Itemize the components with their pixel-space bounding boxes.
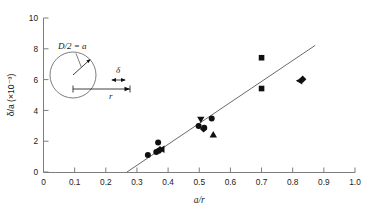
y-tick-label-8: 8 <box>33 44 38 54</box>
x-tick-label-1.0: 1.0 <box>349 177 361 187</box>
figure-container: 0 2 4 6 8 10 0 0.1 0.2 0.3 0.4 0.5 <box>0 0 371 214</box>
y-tick-label-6: 6 <box>33 75 38 85</box>
data-point-triangle-down <box>197 117 204 123</box>
y-axis-title: δ/a (×10⁻³) <box>6 74 16 117</box>
data-point-square <box>259 55 265 61</box>
data-point-group <box>145 55 307 158</box>
delta-label: δ <box>116 65 121 75</box>
delta-arrow-head-right <box>121 78 126 82</box>
y-tick-label-2: 2 <box>33 136 38 146</box>
axes-group <box>44 18 356 173</box>
x-tick-label-0.5: 0.5 <box>193 177 205 187</box>
x-tick-label-0.9: 0.9 <box>318 177 330 187</box>
x-tick-label-0.2: 0.2 <box>100 177 112 187</box>
scatter-plot: 0 2 4 6 8 10 0 0.1 0.2 0.3 0.4 0.5 <box>0 0 371 214</box>
radius-label: D/2 = a <box>57 41 87 51</box>
x-tick-label-0.8: 0.8 <box>287 177 299 187</box>
x-tick-label-0: 0 <box>41 177 46 187</box>
data-point-circle <box>145 152 151 158</box>
x-tick-label-0.1: 0.1 <box>69 177 81 187</box>
x-tick-label-0.3: 0.3 <box>131 177 143 187</box>
y-tick-group: 0 2 4 6 8 10 <box>29 13 49 177</box>
y-tick-label-4: 4 <box>33 106 38 116</box>
data-point-circle <box>209 115 215 121</box>
data-point-triangle-up <box>210 131 217 137</box>
x-tick-label-0.6: 0.6 <box>225 177 237 187</box>
x-tick-label-0.4: 0.4 <box>162 177 174 187</box>
y-tick-label-0: 0 <box>33 167 38 177</box>
data-point-circle <box>201 125 207 131</box>
y-tick-label-10: 10 <box>29 13 39 23</box>
radius-leader-line <box>76 54 82 68</box>
capillary-cross-section-diagram: D/2 = a r δ <box>50 41 130 101</box>
data-point-circle <box>155 139 161 145</box>
x-axis-title: a/r <box>194 195 205 205</box>
delta-arrow-head-left <box>111 78 116 82</box>
data-point-square <box>259 86 265 92</box>
x-tick-label-0.7: 0.7 <box>256 177 268 187</box>
data-point-circle <box>156 148 162 154</box>
r-label: r <box>109 91 113 101</box>
r-arrow-head-right <box>125 87 131 91</box>
x-tick-group: 0 0.1 0.2 0.3 0.4 0.5 0.6 0.7 0.8 0.9 1.… <box>41 168 361 188</box>
